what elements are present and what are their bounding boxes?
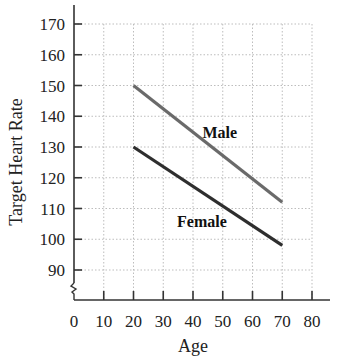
x-tick-label: 20 <box>125 312 142 331</box>
line-chart: 9010011012013014015016017001020304050607… <box>0 0 341 357</box>
y-tick-label: 120 <box>40 169 66 188</box>
x-tick-label: 60 <box>244 312 261 331</box>
series-label-male: Male <box>202 124 237 141</box>
x-tick-label: 30 <box>155 312 172 331</box>
y-tick-label: 150 <box>40 77 66 96</box>
y-tick-label: 100 <box>40 230 66 249</box>
y-tick-label: 140 <box>40 107 66 126</box>
x-tick-label: 0 <box>70 312 79 331</box>
y-tick-label: 170 <box>40 15 66 34</box>
tick-labels: 9010011012013014015016017001020304050607… <box>40 15 321 331</box>
y-axis-title: Target Heart Rate <box>6 98 26 225</box>
grid-lines <box>74 24 312 300</box>
x-axis-title: Age <box>178 336 208 356</box>
axis-break-icon <box>71 283 76 300</box>
x-tick-label: 70 <box>274 312 291 331</box>
axes <box>71 5 330 300</box>
y-tick-label: 110 <box>40 200 65 219</box>
y-tick-label: 130 <box>40 138 66 157</box>
series-label-female: Female <box>177 213 227 230</box>
x-tick-label: 10 <box>95 312 112 331</box>
x-tick-label: 80 <box>304 312 321 331</box>
data-series: MaleFemale <box>134 86 283 246</box>
y-tick-label: 160 <box>40 46 66 65</box>
x-tick-label: 40 <box>185 312 202 331</box>
series-line-female <box>134 147 283 245</box>
y-tick-label: 90 <box>48 261 65 280</box>
series-line-male <box>134 86 283 203</box>
x-tick-label: 50 <box>214 312 231 331</box>
